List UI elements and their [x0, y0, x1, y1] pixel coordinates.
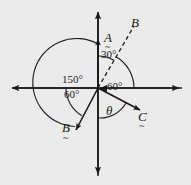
vector-b-dashed-label: B — [131, 16, 139, 29]
vector-angle-diagram: A ~ B B ~ C ~ 30° 150° 60° 60° θ — [0, 0, 191, 185]
angle-150-label: 150° — [62, 74, 83, 85]
vector-b-tilde: ~ — [63, 133, 68, 143]
vector-c-tilde: ~ — [139, 121, 144, 131]
angle-30-label: 30° — [101, 49, 116, 60]
angle-theta-label: θ — [106, 104, 112, 117]
angle-60-left-label: 60° — [64, 89, 79, 100]
diagram-canvas — [0, 0, 191, 185]
angle-60-right-label: 60° — [107, 81, 122, 92]
